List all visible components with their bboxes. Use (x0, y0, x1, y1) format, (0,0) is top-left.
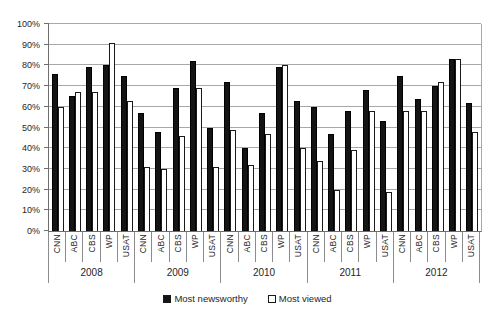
x-axis-category-label: CNN (397, 234, 407, 253)
bar-most-viewed (248, 165, 254, 231)
legend-item-most-viewed: Most viewed (268, 293, 332, 304)
category-cell: USAT (204, 232, 220, 262)
bar-pair-2010-usat (291, 24, 308, 231)
y-axis-tick-label: 70% (0, 81, 40, 91)
category-cell: WP (273, 232, 290, 262)
bar-pair-2012-usat (464, 24, 481, 231)
bar-group-2009 (135, 24, 221, 231)
bar-pair-2008-cbs (84, 24, 101, 231)
category-cell: CNN (308, 232, 325, 262)
bar-pair-2011-usat (377, 24, 394, 231)
category-cell: ABC (325, 232, 342, 262)
y-axis-tick-label: 60% (0, 102, 40, 112)
y-axis-tick-label: 0% (0, 226, 40, 236)
bar-most-viewed (265, 134, 271, 231)
category-cell: USAT (377, 232, 393, 262)
x-axis-category-label: ABC (414, 234, 424, 252)
bar-pair-2012-cnn (395, 24, 412, 231)
category-cell: CNN (135, 232, 152, 262)
x-axis-category-label: WP (276, 234, 286, 248)
legend-item-most-newsworthy: Most newsworthy (163, 293, 247, 304)
bar-pair-2012-wp (446, 24, 463, 231)
bar-most-viewed (179, 136, 185, 231)
x-axis-category-label: CBS (345, 234, 355, 252)
bar-group-2011 (308, 24, 394, 231)
bar-pair-2009-cbs (170, 24, 187, 231)
y-axis: 0%10%20%30%40%50%60%70%80%90%100% (0, 24, 44, 231)
bar-most-viewed (161, 169, 167, 231)
x-axis-category-label: CNN (138, 234, 148, 253)
bar-pair-2008-usat (118, 24, 135, 231)
category-cell: CBS (428, 232, 445, 262)
bar-most-viewed (369, 111, 375, 231)
y-axis-tick-label: 50% (0, 123, 40, 133)
x-axis-category-label: CBS (87, 234, 97, 252)
bar-most-viewed (58, 107, 64, 231)
bar-most-viewed (317, 161, 323, 231)
bar-most-viewed (213, 167, 219, 231)
x-axis-category-label: CBS (259, 234, 269, 252)
category-cell: CNN (221, 232, 238, 262)
x-axis-year-label: 2008 (48, 262, 135, 283)
legend-swatch-most-viewed (268, 295, 276, 303)
bar-pair-2011-cnn (308, 24, 325, 231)
x-axis-category-label: CNN (225, 234, 235, 253)
y-axis-tick-label: 40% (0, 143, 40, 153)
bar-most-viewed (334, 190, 340, 231)
bar-most-viewed (75, 92, 81, 231)
bar-most-viewed (282, 65, 288, 231)
category-cell: USAT (290, 232, 306, 262)
bar-most-viewed (300, 148, 306, 231)
x-axis-category-label: CBS (173, 234, 183, 252)
x-axis-category-label: WP (104, 234, 114, 248)
x-axis-category-label: CNN (52, 234, 62, 253)
plot-area (48, 24, 482, 232)
x-axis-category-labels: CNNABCCBSWPUSATCNNABCCBSWPUSATCNNABCCBSW… (48, 232, 480, 262)
x-axis-category-label: WP (190, 234, 200, 248)
legend-swatch-most-newsworthy (163, 295, 171, 303)
x-axis-category-label: ABC (69, 234, 79, 252)
y-axis-tick-label: 80% (0, 60, 40, 70)
y-axis-tick-label: 100% (0, 19, 40, 29)
bar-group-2008 (49, 24, 135, 231)
bar-pair-2008-abc (66, 24, 83, 231)
bar-most-viewed (421, 111, 427, 231)
bar-most-viewed (230, 130, 236, 231)
category-cell: CNN (49, 232, 66, 262)
category-cell: ABC (411, 232, 428, 262)
category-label-group-2010: CNNABCCBSWPUSAT (221, 232, 307, 262)
bar-most-viewed (403, 111, 409, 231)
bar-pair-2012-abc (412, 24, 429, 231)
bar-most-viewed (472, 132, 478, 231)
bar-pair-2009-cnn (135, 24, 152, 231)
bar-groups (49, 24, 481, 231)
bar-pair-2011-abc (326, 24, 343, 231)
category-cell: CBS (342, 232, 359, 262)
category-cell: WP (101, 232, 118, 262)
bar-pair-2010-cbs (256, 24, 273, 231)
y-axis-tick-label: 30% (0, 164, 40, 174)
bar-most-viewed (351, 150, 357, 231)
legend-label: Most newsworthy (174, 293, 247, 304)
x-axis-category-label: WP (449, 234, 459, 248)
x-axis-year-label: 2009 (135, 262, 221, 283)
y-axis-tick-label: 10% (0, 205, 40, 215)
x-axis-category-label: CNN (311, 234, 321, 253)
category-cell: CBS (170, 232, 187, 262)
legend-label: Most viewed (279, 293, 332, 304)
bar-most-viewed (109, 43, 115, 231)
x-axis-year-labels: 20082009201020112012 (48, 262, 480, 283)
category-cell: ABC (152, 232, 169, 262)
x-axis-category-label: USAT (207, 234, 217, 257)
x-axis-category-label: USAT (380, 234, 390, 257)
category-label-group-2012: CNNABCCBSWPUSAT (394, 232, 480, 262)
x-axis-category-label: ABC (328, 234, 338, 252)
bar-most-viewed (196, 88, 202, 231)
category-cell: USAT (118, 232, 134, 262)
x-axis-category-label: ABC (156, 234, 166, 252)
bar-most-viewed (127, 101, 133, 231)
category-cell: WP (187, 232, 204, 262)
x-axis-category-label: USAT (293, 234, 303, 257)
x-axis-year-label: 2011 (308, 262, 394, 283)
y-axis-tick-label: 90% (0, 40, 40, 50)
